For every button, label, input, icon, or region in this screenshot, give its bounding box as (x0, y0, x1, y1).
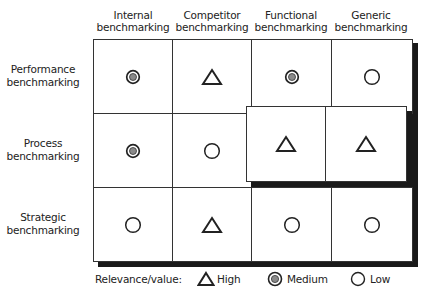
legend-title: Relevance/value: (95, 270, 182, 288)
matrix-cell (246, 106, 326, 182)
circle-icon (283, 216, 301, 234)
matrix-cell (93, 113, 173, 188)
legend-title-text: Relevance/value: (95, 273, 182, 285)
header-line: benchmarking (172, 21, 252, 33)
row-label-line: Process (0, 137, 86, 150)
column-header-competitor: Competitor benchmarking (172, 9, 252, 33)
matrix-cell (93, 39, 173, 114)
legend: Relevance/value: High Medium Low (95, 270, 425, 288)
circle-icon (363, 68, 381, 86)
header-line: Functional (251, 9, 331, 21)
row-label-line: benchmarking (0, 224, 86, 237)
matrix-cell (172, 187, 252, 262)
column-header-generic: Generic benchmarking (331, 9, 411, 33)
header-line: benchmarking (251, 21, 331, 33)
legend-item-high: High (197, 270, 240, 288)
legend-label: Low (370, 273, 390, 285)
header-line: Competitor (172, 9, 252, 21)
row-label-line: Strategic (0, 211, 86, 224)
legend-item-medium: Medium (267, 270, 328, 288)
triangle-icon (355, 135, 377, 153)
header-line: benchmarking (331, 21, 411, 33)
double-circle-icon (284, 69, 300, 85)
row-label-process: Process benchmarking (0, 137, 86, 163)
triangle-icon (201, 68, 223, 86)
legend-label: Medium (287, 273, 328, 285)
matrix-cell (251, 187, 332, 262)
row-label-line: benchmarking (0, 76, 86, 89)
circle-icon (363, 216, 381, 234)
matrix-cell (93, 187, 173, 262)
double-circle-icon (125, 69, 141, 85)
matrix-cell (172, 39, 252, 114)
matrix-cell (251, 39, 332, 114)
header-line: Internal (93, 9, 173, 21)
legend-label: High (217, 273, 240, 285)
row-label-line: Performance (0, 63, 86, 76)
row-label-line: benchmarking (0, 150, 86, 163)
row-label-strategic: Strategic benchmarking (0, 211, 86, 237)
triangle-icon (197, 271, 215, 287)
circle-icon (350, 271, 366, 287)
row-label-performance: Performance benchmarking (0, 63, 86, 89)
matrix-cell (172, 113, 252, 188)
matrix-cell (325, 106, 407, 182)
triangle-icon (275, 135, 297, 153)
legend-item-low: Low (350, 270, 390, 288)
double-circle-icon (267, 271, 283, 287)
double-circle-icon (125, 143, 141, 159)
triangle-icon (201, 216, 223, 234)
circle-icon (203, 142, 221, 160)
column-header-internal: Internal benchmarking (93, 9, 173, 33)
circle-icon (124, 216, 142, 234)
column-header-functional: Functional benchmarking (251, 9, 331, 33)
matrix-cell (331, 187, 413, 262)
matrix-cell (331, 39, 413, 114)
header-line: Generic (331, 9, 411, 21)
header-line: benchmarking (93, 21, 173, 33)
